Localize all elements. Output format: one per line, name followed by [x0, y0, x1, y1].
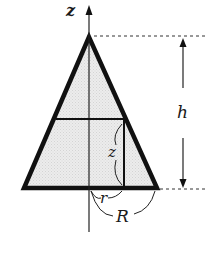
inner-radius-label-r: r	[100, 189, 108, 207]
h-arrowhead-up-icon	[180, 38, 187, 47]
cone-diagram: z h z r R	[0, 0, 221, 274]
h-arrowhead-down-icon	[180, 179, 187, 188]
outer-radius-label-R: R	[115, 206, 129, 226]
z-axis-arrowhead-icon	[86, 5, 93, 15]
inner-height-label-z: z	[107, 143, 116, 161]
height-label-h: h	[177, 102, 188, 122]
cone-triangle	[24, 37, 157, 188]
axis-label-z: z	[65, 1, 76, 20]
